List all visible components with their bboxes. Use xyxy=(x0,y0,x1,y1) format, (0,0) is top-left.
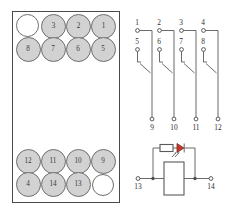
socket-pin-10: 10 xyxy=(66,149,91,174)
contact-1-common-wire xyxy=(138,52,142,63)
led-emission-head-2 xyxy=(175,152,177,154)
coil-terminal-13-label: 13 xyxy=(134,182,142,191)
contact-1-nc-wire xyxy=(140,31,153,63)
contact-2-common-label: 6 xyxy=(157,37,161,46)
socket-pin-blank-bottom xyxy=(92,174,114,196)
coil-section: 13 14 xyxy=(134,144,215,196)
contact-1-blade xyxy=(140,64,151,74)
contact-group-1: 1 5 9 xyxy=(135,18,154,132)
relay-pinout-diagram: 3 2 1 8 7 6 5 12 11 10 9 4 14 13 1 5 9 2 xyxy=(0,0,234,219)
contact-1-nc-label: 1 xyxy=(135,18,139,27)
contact-4-nc-label: 4 xyxy=(201,18,205,27)
contact-2-no-label: 10 xyxy=(170,123,178,132)
contact-2-common-terminal xyxy=(158,48,162,52)
contact-4-no-label: 12 xyxy=(214,123,222,132)
contact-2-nc-terminal xyxy=(158,29,162,33)
socket-pin-14: 14 xyxy=(41,172,66,197)
contact-4-common-wire xyxy=(204,52,208,63)
coil-terminal-13 xyxy=(136,177,140,181)
contact-group-2: 2 6 10 xyxy=(157,18,178,132)
contact-1-no-terminal xyxy=(150,117,154,121)
contact-3-common-terminal xyxy=(180,48,184,52)
contact-3-common-label: 7 xyxy=(179,37,183,46)
contact-2-common-wire xyxy=(160,52,164,63)
indicator-right-wire xyxy=(188,148,195,179)
contact-group-4: 4 8 12 xyxy=(201,18,222,132)
socket-pin-8: 8 xyxy=(16,37,41,62)
socket-pin-12: 12 xyxy=(16,149,41,174)
led-icon xyxy=(177,144,184,153)
led-emission-arrow-1 xyxy=(175,153,179,158)
contact-3-blade xyxy=(184,64,195,74)
indicator-left-wire xyxy=(153,148,160,179)
socket-pin-1: 1 xyxy=(91,14,116,39)
contact-1-common-terminal xyxy=(136,48,140,52)
led-emission-arrow-2 xyxy=(172,153,176,158)
led-emission-head-1 xyxy=(178,152,180,154)
contact-2-nc-wire xyxy=(162,31,175,63)
contact-3-nc-label: 3 xyxy=(179,18,183,27)
contact-4-nc-wire xyxy=(206,31,219,63)
socket-pin-3: 3 xyxy=(41,14,66,39)
coil-terminal-14 xyxy=(209,177,213,181)
socket-pin-2: 2 xyxy=(66,14,91,39)
contact-3-nc-wire xyxy=(184,31,197,63)
contact-3-nc-terminal xyxy=(180,29,184,33)
contact-1-common-label: 5 xyxy=(135,37,139,46)
coil-body xyxy=(164,162,184,195)
contact-2-nc-label: 2 xyxy=(157,18,161,27)
contact-2-blade xyxy=(162,64,173,74)
contact-3-no-terminal xyxy=(194,117,198,121)
coil-terminal-14-label: 14 xyxy=(207,182,215,191)
socket-pin-7: 7 xyxy=(41,37,66,62)
contact-4-no-terminal xyxy=(216,117,220,121)
socket-pin-6: 6 xyxy=(66,37,91,62)
contact-4-blade xyxy=(206,64,217,74)
contact-1-no-label: 9 xyxy=(150,123,154,132)
socket-pin-11: 11 xyxy=(41,149,66,174)
coil-node-right xyxy=(193,177,196,180)
contact-4-nc-terminal xyxy=(202,29,206,33)
contact-group-3: 3 7 11 xyxy=(179,18,200,132)
contact-2-no-terminal xyxy=(172,117,176,121)
contact-3-common-wire xyxy=(182,52,186,63)
socket-pin-5: 5 xyxy=(91,37,116,62)
socket-pin-13: 13 xyxy=(66,172,91,197)
resistor-symbol xyxy=(160,145,173,152)
contact-4-common-label: 8 xyxy=(201,37,205,46)
socket-pin-9: 9 xyxy=(91,149,116,174)
contact-3-no-label: 11 xyxy=(192,123,199,132)
socket-pin-blank-top xyxy=(16,14,39,37)
coil-node-left xyxy=(151,177,154,180)
contact-1-nc-terminal xyxy=(136,29,140,33)
contact-4-common-terminal xyxy=(202,48,206,52)
socket-pin-4: 4 xyxy=(16,172,41,197)
